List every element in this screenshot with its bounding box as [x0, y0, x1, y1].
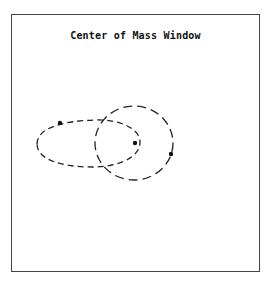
body-on-egg-orbit: [58, 121, 62, 125]
body-on-circular-orbit: [169, 152, 173, 156]
egg-shaped-orbit: [37, 120, 140, 167]
center-of-mass: [133, 141, 137, 145]
orbit-diagram: [0, 0, 275, 288]
